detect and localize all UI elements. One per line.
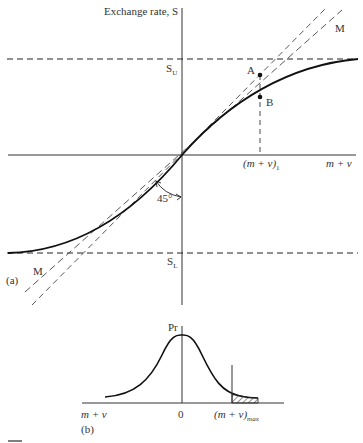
panel-b-tag: (b)	[81, 423, 94, 435]
x-axis-label-a: m + v	[326, 157, 352, 169]
point-a-label: A	[247, 64, 255, 76]
y-axis-label-a: Exchange rate, S	[104, 5, 178, 17]
point-b-label: B	[266, 96, 273, 108]
upper-bound-subscript: U	[172, 69, 177, 77]
lower-bound-label: SL	[167, 255, 177, 270]
x-left-label-b: m + v	[81, 408, 107, 420]
m-line-label-bottom: M	[33, 265, 43, 277]
lower-bound-subscript: L	[173, 262, 177, 270]
x-max-text: (m + v)	[214, 408, 247, 420]
x-marker-text: (m + v)	[243, 157, 276, 169]
panel-a-tag: (a)	[6, 274, 18, 286]
m-line-outer	[32, 9, 325, 305]
exchange-rate-curve	[8, 59, 358, 253]
x-marker-label: (m + v)1	[243, 157, 280, 172]
target-zone-diagram	[0, 0, 363, 443]
point-b-dot	[258, 95, 263, 100]
x-center-label-b: 0	[178, 408, 184, 420]
angle-label: 45°	[157, 192, 172, 204]
m-line-inner	[25, 10, 342, 292]
upper-bound-label: SU	[166, 62, 177, 77]
x-marker-subscript: 1	[276, 164, 280, 172]
x-max-label-b: (m + v)max	[214, 408, 259, 423]
m-line-label-top: M	[335, 22, 345, 34]
tail-hatched-area	[232, 394, 258, 403]
y-axis-label-b: Pr	[168, 321, 178, 333]
point-a-dot	[258, 73, 263, 78]
x-max-subscript: max	[247, 415, 259, 423]
arc-arrowhead-bottom	[176, 194, 181, 200]
